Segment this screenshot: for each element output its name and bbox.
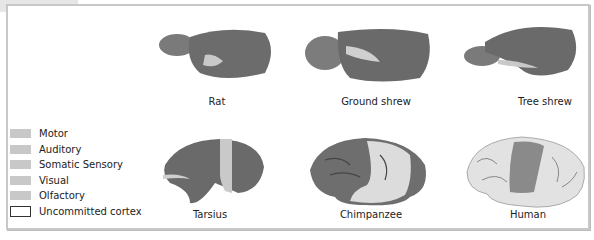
ground-shrew-brain-image <box>300 20 440 85</box>
rat-brain-image <box>155 25 280 85</box>
tree-shrew-brain-image <box>460 22 590 82</box>
caption-human: Human <box>468 209 588 220</box>
caption-chimpanzee: Chimpanzee <box>311 209 431 220</box>
chimpanzee-brain-image <box>305 135 430 210</box>
legend: Motor Auditory Somatic Sensory Visual Ol… <box>10 126 142 219</box>
legend-label: Somatic Sensory <box>39 159 123 170</box>
motor-swatch <box>10 129 31 138</box>
human-brain-image <box>462 132 587 210</box>
legend-item-olfactory: Olfactory <box>10 188 142 204</box>
legend-item-uncommitted: Uncommitted cortex <box>10 204 142 220</box>
legend-label: Olfactory <box>39 190 85 201</box>
legend-label: Auditory <box>39 144 81 155</box>
visual-swatch <box>10 176 31 185</box>
tarsius-brain-image <box>160 135 270 207</box>
caption-tarsius: Tarsius <box>150 209 270 220</box>
legend-item-visual: Visual <box>10 173 142 189</box>
legend-item-auditory: Auditory <box>10 142 142 158</box>
auditory-swatch <box>10 145 31 154</box>
olfactory-swatch <box>10 191 31 200</box>
legend-label: Uncommitted cortex <box>39 206 142 217</box>
legend-item-motor: Motor <box>10 126 142 142</box>
legend-item-somatic-sensory: Somatic Sensory <box>10 157 142 173</box>
somatic-sensory-swatch <box>10 160 31 169</box>
legend-label: Motor <box>39 128 68 139</box>
caption-rat: Rat <box>157 96 277 107</box>
caption-ground-shrew: Ground shrew <box>316 96 436 107</box>
caption-tree-shrew: Tree shrew <box>485 96 594 107</box>
legend-label: Visual <box>39 175 69 186</box>
uncommitted-swatch <box>10 206 31 217</box>
